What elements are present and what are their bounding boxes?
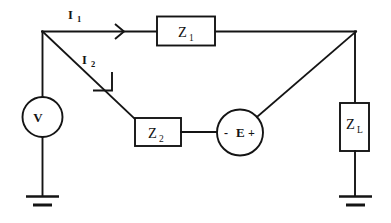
source-e-minus-sign: -	[224, 126, 228, 140]
impedance-z1-label: Z	[178, 24, 187, 40]
circuit-diagram: I 1 I 2 Z 1 Z 2 Z L V - E +	[0, 0, 391, 223]
impedance-z2-subscript: 2	[159, 134, 164, 144]
current-i2-label: I	[82, 53, 87, 67]
impedance-z1-subscript: 1	[189, 33, 194, 43]
impedance-zl-subscript: L	[357, 125, 363, 135]
current-i1-subscript: 1	[77, 14, 81, 24]
source-v-label: V	[33, 110, 43, 125]
current-i1-label: I	[68, 8, 73, 22]
source-e-plus-sign: +	[248, 126, 255, 140]
impedance-z2-box	[135, 118, 181, 146]
source-e-label: E	[236, 125, 245, 140]
impedance-zl-label: Z	[346, 116, 355, 132]
current-i2-subscript: 2	[91, 59, 95, 69]
impedance-z2-label: Z	[148, 125, 157, 141]
circuit-canvas: I 1 I 2 Z 1 Z 2 Z L V - E +	[0, 0, 391, 223]
